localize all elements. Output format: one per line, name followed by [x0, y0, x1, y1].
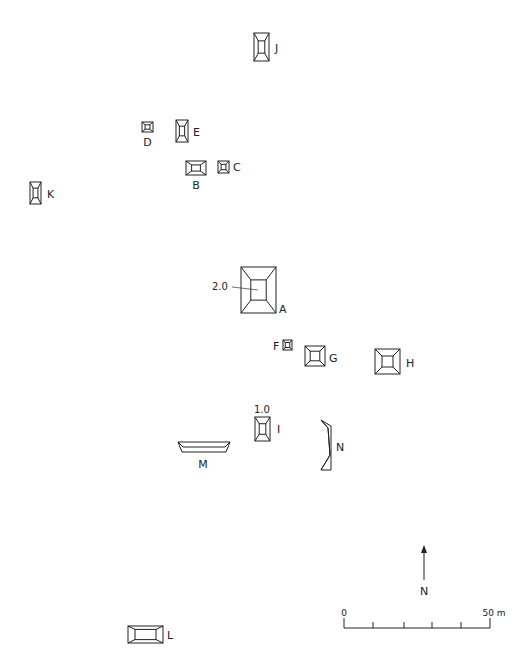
structure-summit	[258, 41, 265, 53]
structure-summit	[259, 424, 266, 435]
structure-corner-line	[265, 33, 269, 41]
scale-bar: 0 50 m	[341, 608, 505, 628]
structure-corner-line	[305, 361, 310, 366]
structure-corner-line	[156, 626, 163, 629]
structure-corner-line	[185, 120, 188, 126]
site-plan-map: JDEBCKAFGHIL MN 2.01.0 N 0 50 m	[0, 0, 530, 659]
north-label: N	[420, 585, 428, 598]
structure-corner-line	[266, 417, 270, 424]
structure-I: I	[255, 417, 280, 441]
structure-label: K	[47, 188, 55, 201]
structure-corner-line	[320, 361, 325, 366]
structure-label: M	[198, 458, 208, 471]
structure-inner-edge	[321, 420, 330, 470]
structure-K: K	[30, 182, 55, 204]
structure-corner-line	[200, 161, 206, 165]
structure-N: N	[321, 420, 344, 470]
structure-label: E	[193, 126, 200, 139]
elevation-value: 1.0	[254, 404, 270, 415]
structure-summit	[33, 188, 38, 198]
structure-summit	[285, 343, 290, 348]
elevation-leader-line	[232, 287, 258, 290]
structure-corner-line	[255, 434, 259, 441]
structure-corner-line	[266, 434, 270, 441]
structure-label: J	[274, 42, 278, 55]
structure-G: G	[305, 346, 338, 366]
structure-label: F	[273, 340, 279, 353]
structure-label: H	[406, 357, 414, 370]
structure-corner-line	[200, 171, 206, 175]
structure-corner-line	[305, 346, 310, 351]
structure-corner-line	[375, 349, 382, 356]
structure-B: B	[186, 161, 206, 192]
structure-F: F	[273, 340, 292, 353]
structure-corner-line	[241, 300, 251, 313]
structure-corner-line	[186, 161, 192, 165]
north-arrow: N	[420, 545, 428, 598]
structure-corner-line	[156, 640, 163, 643]
elevation-value: 2.0	[212, 281, 228, 292]
structure-label: N	[336, 441, 344, 454]
structure-corner-line	[375, 367, 382, 374]
structure-corner-line	[128, 626, 135, 629]
structure-corner-line	[320, 346, 325, 351]
structure-corner-line	[254, 33, 258, 41]
structure-D: D	[142, 122, 153, 149]
structure-corner-line	[266, 300, 276, 313]
structure-corner-line	[128, 640, 135, 643]
structure-label: A	[279, 303, 287, 316]
structure-summit	[310, 351, 320, 361]
structure-label: L	[167, 629, 174, 642]
scale-end-label: 50 m	[482, 608, 505, 618]
structure-inner-edge	[178, 442, 230, 447]
structure-corner-line	[241, 267, 251, 280]
structure-corner-line	[254, 53, 258, 61]
structure-corner-line	[265, 53, 269, 61]
structure-corner-line	[255, 417, 259, 424]
structure-corner-line	[176, 136, 179, 142]
scale-start-label: 0	[341, 608, 347, 618]
structure-J: J	[254, 33, 278, 61]
structure-summit	[145, 125, 150, 129]
structure-summit	[135, 629, 156, 639]
scale-bar-ticks	[344, 618, 490, 628]
structure-label: C	[233, 161, 241, 174]
structure-C: C	[218, 161, 241, 174]
structure-corner-line	[266, 267, 276, 280]
structure-L: L	[128, 626, 174, 643]
structure-label: I	[277, 423, 280, 436]
structure-summit	[179, 126, 184, 136]
structure-corner-line	[393, 367, 400, 374]
structure-summit	[221, 164, 226, 169]
structure-summit	[382, 356, 393, 367]
structure-label: B	[192, 179, 200, 192]
irregular-structures-layer: MN	[178, 420, 344, 471]
structure-A: A	[241, 267, 287, 316]
structure-label: D	[143, 136, 151, 149]
structure-E: E	[176, 120, 200, 142]
north-arrow-icon	[421, 545, 427, 553]
structure-corner-line	[393, 349, 400, 356]
structure-M: M	[178, 442, 230, 471]
structure-corner-line	[176, 120, 179, 126]
structure-summit	[192, 165, 201, 171]
structure-corner-line	[185, 136, 188, 142]
structure-summit	[251, 280, 266, 300]
structures-layer: JDEBCKAFGHIL	[30, 33, 414, 643]
structure-H: H	[375, 349, 414, 374]
structure-corner-line	[186, 171, 192, 175]
structure-label: G	[329, 352, 338, 365]
